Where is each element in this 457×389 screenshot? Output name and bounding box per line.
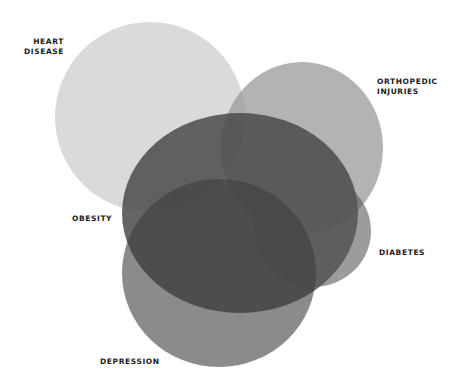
label-orthopedic-injuries: ORTHOPEDIC INJURIES <box>377 77 438 97</box>
circle-depression <box>122 179 316 367</box>
label-diabetes: DIABETES <box>379 248 425 258</box>
venn-diagram <box>0 0 457 389</box>
label-depression: DEPRESSION <box>100 357 160 367</box>
label-heart-disease: HEART DISEASE <box>24 37 64 57</box>
label-obesity: OBESITY <box>72 214 112 224</box>
